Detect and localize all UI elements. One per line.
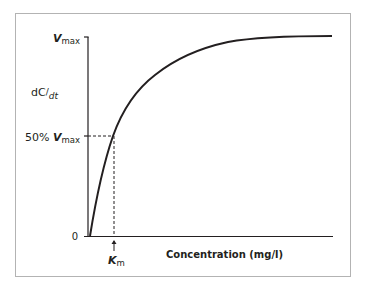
y-label-zero: 0	[72, 231, 78, 242]
rate-curve	[90, 36, 332, 236]
y-label-half-vmax: 50% Vmax	[25, 131, 80, 145]
chart: Vmax dC/dt 50% Vmax 0 Km Concentration (…	[0, 0, 366, 292]
y-axis-label: dC/dt	[31, 86, 58, 101]
y-label-vmax: Vmax	[53, 32, 80, 46]
km-arrow-icon	[112, 240, 117, 251]
x-axis-label: Concentration (mg/l)	[166, 249, 283, 260]
x-annotation-km: Km	[108, 254, 125, 268]
